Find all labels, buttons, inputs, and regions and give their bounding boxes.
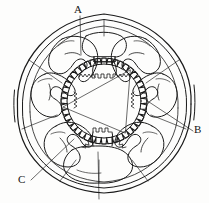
yoke-inner-arc-1 xyxy=(30,26,178,112)
radial-line-se xyxy=(132,160,148,181)
pole-neck-line xyxy=(141,138,148,152)
pole-neck-line xyxy=(129,53,144,55)
leader-c xyxy=(31,139,74,180)
motor-cross-section-drawing xyxy=(0,0,209,203)
radial-line-w xyxy=(22,115,57,129)
stator-pole-top-right xyxy=(111,36,160,81)
radial-line-sw xyxy=(60,160,76,181)
outer-housing xyxy=(14,14,195,193)
stator-pole-top-left xyxy=(49,36,98,81)
figure-canvas: A B C xyxy=(0,0,209,203)
leader-a xyxy=(80,16,81,55)
callout-label-c: C xyxy=(18,174,25,185)
pole-winding-turn xyxy=(51,132,65,134)
callout-leaders xyxy=(31,16,193,199)
radial-line-e xyxy=(151,115,186,129)
pole-body-outline xyxy=(111,36,160,81)
toothed-rotor-gear xyxy=(61,58,147,144)
pole-shoe-teeth xyxy=(93,128,111,132)
pole-winding-turn xyxy=(77,170,101,173)
pole-neck-line xyxy=(60,138,67,152)
housing-outer-arc-bottom xyxy=(17,104,191,193)
stator-pole-bottom-right xyxy=(115,122,164,167)
housing-right-stub xyxy=(194,85,195,120)
pole-winding-turn xyxy=(143,132,157,134)
pole-body-outline xyxy=(49,36,98,81)
pole-winding-turn xyxy=(38,79,52,82)
stator-pole-right xyxy=(131,73,177,117)
stator-pole-top xyxy=(82,32,126,78)
pole-shoe-teeth xyxy=(92,74,116,78)
callout-label-a: A xyxy=(74,4,82,15)
stator-pole-left xyxy=(31,73,77,117)
callout-label-b: B xyxy=(194,124,201,135)
pole-winding-turn xyxy=(156,79,170,82)
pole-body-outline xyxy=(115,122,164,167)
housing-left-stub xyxy=(14,90,15,122)
pole-neck-line xyxy=(65,53,80,55)
pole-shoe-teeth xyxy=(79,74,95,77)
